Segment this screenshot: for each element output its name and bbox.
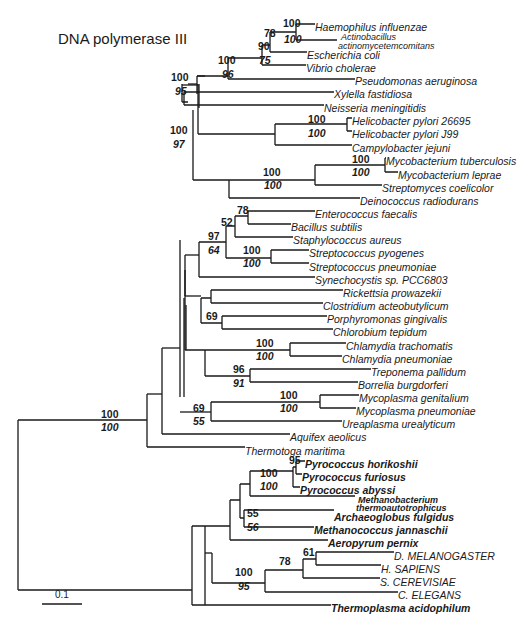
support-value-primary: 100 xyxy=(352,153,370,165)
support-value-secondary: 64 xyxy=(208,244,220,256)
tree-branch xyxy=(211,402,342,421)
support-value-secondary: 95 xyxy=(175,85,187,97)
support-value-secondary: 55 xyxy=(193,415,205,427)
taxon-label: Treponema pallidum xyxy=(371,366,466,378)
taxon-label: Enterococcus faecalis xyxy=(315,208,418,220)
taxon-label: Porphyromonas gingivalis xyxy=(327,313,448,325)
taxon-label: Mycoplasma pneumoniae xyxy=(356,405,476,417)
taxon-label: Rickettsia prowazekii xyxy=(343,287,442,299)
taxon-label: Mycobacterium leprae xyxy=(398,169,501,181)
tree-branch xyxy=(205,350,290,376)
tree-branch xyxy=(222,316,333,329)
support-value-secondary: 100 xyxy=(280,402,298,414)
support-value-primary: 100 xyxy=(235,566,253,578)
support-value-secondary: 91 xyxy=(233,377,245,389)
tree-branch xyxy=(303,559,380,578)
taxon-label: Chlorobium tepidum xyxy=(333,326,427,338)
taxon-label: Chlamydia trachomatis xyxy=(346,340,454,352)
support-value-primary: 96 xyxy=(233,363,245,375)
taxon-label: Clostridium acteobutylicum xyxy=(323,300,449,312)
support-value-primary: 78 xyxy=(237,204,249,216)
support-value-primary: 78 xyxy=(264,27,276,39)
support-value-primary: 100 xyxy=(101,408,119,420)
taxon-label: Streptococcus pneumoniae xyxy=(309,261,436,273)
taxon-label: Archaeoglobus fulgidus xyxy=(333,511,454,523)
taxon-label: Pseudomonas aeruginosa xyxy=(355,75,477,87)
tree-branch xyxy=(18,420,147,590)
taxon-label: S. CEREVISIAE xyxy=(380,576,457,588)
support-value-secondary: 100 xyxy=(243,257,261,269)
scale-bar-label: 0.1 xyxy=(55,589,69,600)
support-value-primary: 52 xyxy=(221,216,233,228)
taxon-label: Aeropyrum pernix xyxy=(327,537,420,549)
support-value-primary: 100 xyxy=(243,244,261,256)
support-value-primary: 100 xyxy=(283,17,301,29)
taxon-label: Mycoplasma genitalium xyxy=(359,392,469,404)
taxon-label: Helicobacter pylori J99 xyxy=(352,128,458,140)
tree-branch xyxy=(290,343,346,356)
taxon-label: Deinococcus radiodurans xyxy=(360,195,479,207)
scale-bar: 0.1 xyxy=(42,589,82,604)
support-value-secondary: 95 xyxy=(238,580,250,592)
taxon-label: D. MELANOGASTER xyxy=(394,550,495,562)
support-value-primary: 90 xyxy=(258,40,270,52)
tree-branch xyxy=(186,305,205,350)
support-value-primary: 100 xyxy=(171,71,189,83)
support-value-primary: 69 xyxy=(206,310,218,322)
tree-branch xyxy=(18,526,205,590)
support-value-secondary: 100 xyxy=(352,166,370,178)
taxon-label: Campylobacter jejuni xyxy=(352,142,451,154)
support-value-primary: 78 xyxy=(279,555,291,567)
support-value-secondary: 100 xyxy=(308,127,326,139)
taxon-label: Thermotoga maritima xyxy=(245,445,345,457)
tree-branch xyxy=(205,526,230,605)
taxon-label: Methanococcus jannaschii xyxy=(314,524,449,536)
support-value-primary: 69 xyxy=(193,402,205,414)
taxon-label: Streptomyces coelicolor xyxy=(382,182,494,194)
support-value-secondary: 100 xyxy=(260,480,278,492)
taxon-label: Mycobacterium tuberculosis xyxy=(386,155,517,167)
support-value-primary: 100 xyxy=(263,166,281,178)
taxon-label: Chlamydia pneumoniae xyxy=(342,353,452,365)
support-value-primary: 100 xyxy=(256,337,274,349)
taxon-label: Synechocystis sp. PCC6803 xyxy=(315,274,448,286)
tree-branch xyxy=(320,395,359,408)
tree-branch xyxy=(184,92,334,105)
taxon-label: Streptococcus pyogenes xyxy=(309,247,425,259)
support-value-secondary: 97 xyxy=(173,138,186,150)
support-value-primary: 55 xyxy=(247,507,259,519)
taxon-labels: Haemophilus influenzaeActinobacillusacti… xyxy=(245,21,517,614)
support-value-primary: 61 xyxy=(303,546,315,558)
taxon-label: Neisseria meningitidis xyxy=(324,102,427,114)
support-value-secondary: 100 xyxy=(256,350,274,362)
taxon-label: Escherichia coli xyxy=(307,49,381,61)
taxon-label: Bacillus subtilis xyxy=(291,221,363,233)
taxon-label: Pyrococcus furiosus xyxy=(302,471,406,483)
tree-branch xyxy=(315,165,385,185)
support-value-primary: 100 xyxy=(260,467,278,479)
tree-branch xyxy=(235,216,293,237)
support-value-primary: 100 xyxy=(170,124,188,136)
support-value-secondary: 75 xyxy=(259,54,271,66)
support-value-secondary: 56 xyxy=(247,521,259,533)
phylogenetic-tree: 1001007890751009610095100100100971001001… xyxy=(0,0,526,626)
support-value-secondary: 100 xyxy=(284,33,302,45)
taxon-label: Pyrococcus horikoshii xyxy=(305,458,419,470)
support-value-primary: 97 xyxy=(208,230,220,242)
taxon-label: Staphylococcus aureus xyxy=(293,234,402,246)
tree-branch xyxy=(226,226,235,258)
tree-branch xyxy=(271,250,309,263)
support-value-primary: 100 xyxy=(280,389,298,401)
tree-branch xyxy=(250,369,371,382)
taxon-label: Helicobacter pylori 26695 xyxy=(352,115,471,127)
taxon-label: H. SAPIENS xyxy=(381,563,440,575)
support-value-primary: 100 xyxy=(218,54,236,66)
taxon-label: Thermoplasma acidophilum xyxy=(331,602,470,614)
support-value-secondary: 96 xyxy=(222,68,234,80)
taxon-label: Aquifex aeolicus xyxy=(289,431,367,443)
support-value-primary: 100 xyxy=(308,113,326,125)
taxon-label: Borrelia burgdorferi xyxy=(358,379,449,391)
taxon-label: Ureaplasma urealyticum xyxy=(342,418,455,430)
support-value-secondary: 100 xyxy=(101,421,119,433)
tree-branch xyxy=(265,570,398,592)
